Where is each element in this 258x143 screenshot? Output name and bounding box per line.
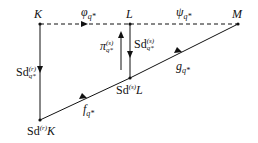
sdr-scripts: (r)q* (29, 66, 36, 80)
node-label-SdsL: Sd(s)L (116, 84, 143, 96)
node-dot-SdrK (38, 118, 41, 121)
sds-prefix: Sd (134, 37, 147, 51)
sds-scripts: (s)q* (147, 38, 154, 52)
arrow-label-sdr: Sd(r)q* (16, 66, 36, 80)
phi-sub: q* (88, 12, 96, 21)
node-label-K: K (34, 8, 42, 20)
arrowhead-g (174, 47, 182, 53)
g-sub: q* (182, 66, 190, 75)
sdrk-prefix: Sd (27, 124, 40, 138)
sds-sub: q* (147, 45, 154, 52)
phi-base: φ (81, 5, 88, 19)
node-label-SdrK: Sd(r)K (27, 125, 55, 137)
sdsl-suffix: L (136, 83, 143, 97)
sdr-prefix: Sd (16, 65, 29, 79)
node-dot-K (38, 22, 41, 25)
arrowhead-pi (118, 31, 124, 38)
sdr-sub: q* (29, 73, 36, 80)
node-dot-L (128, 22, 131, 25)
arrowhead-f (79, 93, 87, 99)
arrow-label-g: gq* (176, 60, 190, 72)
arrow-label-phi: φq* (81, 6, 96, 18)
node-dot-SdsL (128, 76, 131, 79)
arrowhead-sdr (37, 66, 43, 73)
node-dot-M (236, 22, 239, 25)
node-label-L: L (126, 8, 133, 20)
arrow-label-psi: ψq* (176, 6, 191, 18)
diagram-canvas (0, 0, 258, 143)
arrow-label-f: fq* (83, 103, 94, 115)
pi-sub: q* (106, 47, 113, 54)
sdrk-suffix: K (47, 124, 55, 138)
arrowhead-sds (127, 51, 133, 58)
psi-sub: q* (183, 12, 191, 21)
sdrk-sup: (r) (40, 124, 47, 132)
node-label-M: M (232, 8, 242, 20)
arrow-label-sds: Sd(s)q* (134, 38, 154, 52)
sdsl-prefix: Sd (116, 83, 129, 97)
pi-scripts: (s)q* (106, 40, 113, 54)
arrowhead-phi (81, 21, 88, 27)
f-sub: q* (86, 109, 94, 118)
sdsl-sup: (s) (129, 83, 136, 91)
arrow-label-pi: π(s)q* (100, 40, 113, 54)
